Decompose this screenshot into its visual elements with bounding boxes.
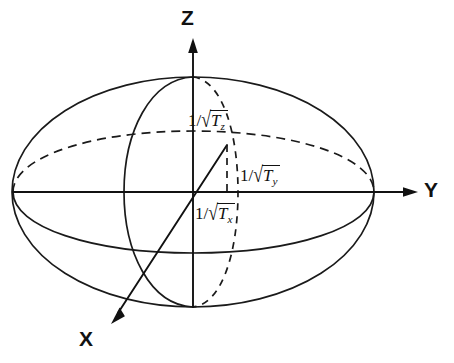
ellipsoid-diagram bbox=[0, 0, 454, 363]
y-axis-arrowhead bbox=[403, 187, 418, 197]
ty-radicand: T bbox=[263, 166, 272, 185]
z-axis-arrowhead bbox=[188, 38, 198, 53]
ty-numerator: 1 bbox=[240, 166, 249, 185]
tx-subscript: x bbox=[228, 213, 233, 225]
z-axis-label: Z bbox=[181, 6, 194, 30]
tx-radicand: T bbox=[218, 204, 227, 223]
tz-numerator: 1 bbox=[188, 111, 197, 130]
tz-radicand: T bbox=[211, 111, 220, 130]
x-axis-label: X bbox=[79, 327, 93, 351]
tz-subscript: z bbox=[221, 120, 225, 132]
semi-axis-label-ty: 1/√Ty bbox=[240, 165, 280, 187]
semi-axis-label-tx: 1/√Tx bbox=[195, 203, 235, 225]
y-axis-label: Y bbox=[424, 178, 438, 202]
figure-root: Z Y X 1/√Tz 1/√Ty 1/√Tx bbox=[0, 0, 454, 363]
x-axis-line bbox=[118, 145, 227, 313]
semi-axis-label-tz: 1/√Tz bbox=[188, 110, 228, 132]
tx-numerator: 1 bbox=[195, 204, 204, 223]
ty-subscript: y bbox=[273, 175, 278, 187]
x-axis-arrowhead bbox=[111, 307, 125, 324]
